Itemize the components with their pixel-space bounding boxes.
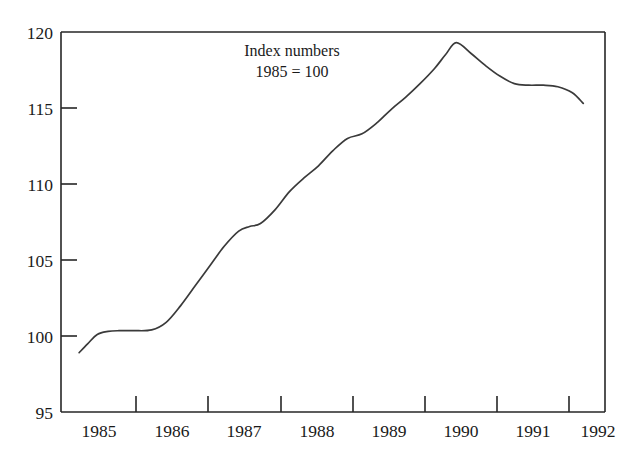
annotation-line-1: Index numbers — [244, 42, 340, 59]
x-tick-label-1987: 1987 — [227, 421, 262, 441]
y-tick-label-120: 120 — [27, 23, 54, 43]
y-tick-label-100: 100 — [27, 327, 54, 347]
chart-figure: 120 115 110 105 100 95 1985 1986 1987 19… — [0, 0, 632, 454]
x-tick-label-1986: 1986 — [155, 421, 190, 441]
annotation-line-2: 1985 = 100 — [255, 63, 328, 80]
x-tick-label-1988: 1988 — [300, 421, 335, 441]
y-tick-label-115: 115 — [27, 99, 53, 119]
x-tick-label-1992: 1992 — [581, 421, 616, 441]
x-tick-label-1990: 1990 — [444, 421, 479, 441]
y-tick-label-110: 110 — [27, 175, 53, 195]
x-tick-label-1985: 1985 — [82, 421, 117, 441]
x-tick-label-1989: 1989 — [372, 421, 407, 441]
y-tick-label-95: 95 — [36, 403, 54, 423]
x-tick-label-1991: 1991 — [516, 421, 551, 441]
line-chart-svg: 120 115 110 105 100 95 1985 1986 1987 19… — [0, 0, 632, 454]
y-tick-label-105: 105 — [27, 251, 54, 271]
